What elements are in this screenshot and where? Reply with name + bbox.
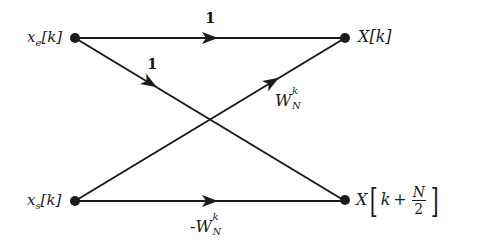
- arrow-icon-diagonal-up: [262, 73, 282, 92]
- node-output-top: [340, 33, 350, 43]
- argument-k: [k]: [41, 191, 62, 209]
- superscript-k: k: [212, 212, 218, 222]
- gain-bottom-horizontal: - W k N: [190, 219, 212, 235]
- label-output-bottom: X [ k + N 2 ]: [356, 183, 441, 217]
- symbol-W: W: [275, 91, 291, 110]
- gain-diagonal-down: 1: [147, 57, 157, 72]
- superscript-k: k: [292, 86, 298, 96]
- symbol-X: X: [356, 192, 367, 208]
- node-input-top: [70, 33, 80, 43]
- node-input-bottom: [70, 196, 80, 206]
- subscript-N: N: [292, 101, 301, 111]
- label-input-top: xe[k]: [27, 30, 62, 48]
- denominator: 2: [414, 202, 423, 216]
- left-bracket: [: [370, 183, 378, 217]
- right-bracket: ]: [430, 183, 438, 217]
- node-output-bottom: [340, 195, 350, 205]
- argument-k: [k]: [41, 28, 62, 46]
- plus-sign: +: [393, 192, 406, 208]
- label-output-top: X[k]: [358, 29, 392, 45]
- arrow-icon-diagonal-down: [140, 74, 160, 93]
- subscript-N: N: [212, 227, 221, 237]
- symbol-W: W: [195, 217, 211, 236]
- symbol-k: k: [381, 192, 391, 208]
- gain-diagonal-up: W k N: [275, 93, 291, 109]
- gain-top-horizontal: 1: [205, 11, 215, 26]
- fraction-n-over-2: N 2: [412, 185, 426, 216]
- numerator: N: [413, 185, 425, 199]
- label-input-bottom: xs[k]: [27, 193, 61, 211]
